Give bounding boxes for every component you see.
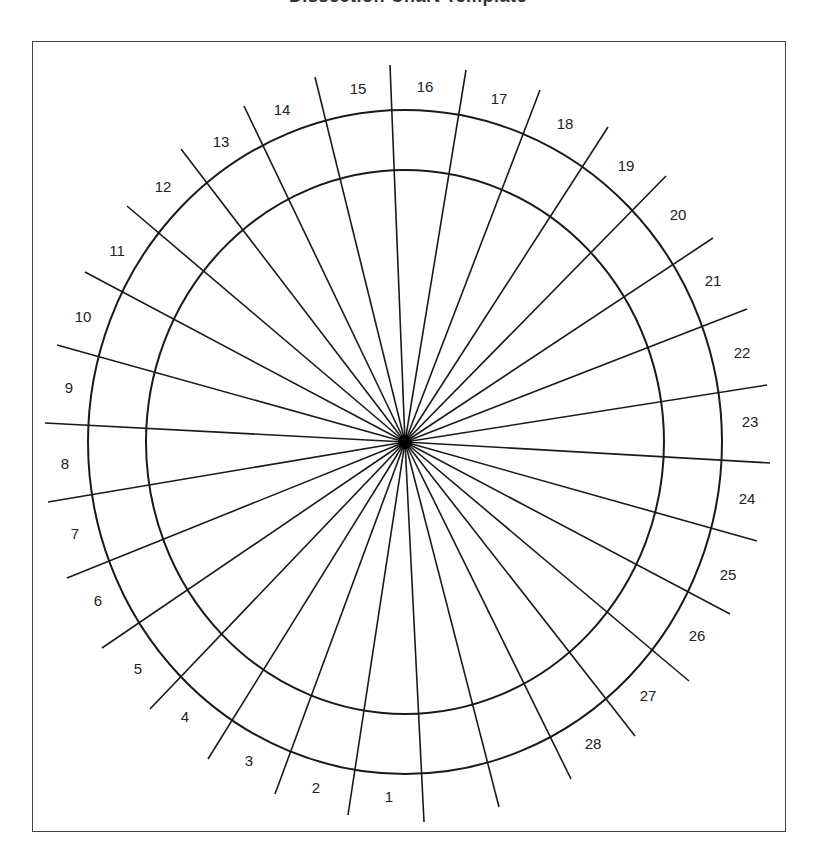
radial-line: [405, 442, 635, 736]
sector-label: 13: [213, 133, 230, 150]
sector-label: 1: [385, 788, 393, 805]
sector-label: 21: [705, 272, 722, 289]
sector-label: 20: [670, 206, 687, 223]
radial-line: [405, 442, 499, 807]
radial-line: [390, 65, 405, 442]
sector-label: 22: [734, 344, 751, 361]
radial-line: [405, 442, 757, 541]
radial-line: [405, 442, 770, 463]
radial-line: [405, 70, 466, 442]
radial-line: [315, 77, 405, 442]
sector-label: 9: [65, 379, 73, 396]
radial-line: [127, 206, 405, 442]
sector-label: 18: [557, 115, 574, 132]
radial-line: [405, 442, 424, 822]
center-hub: [398, 435, 412, 449]
radial-line: [45, 423, 405, 442]
sector-label: 26: [689, 627, 706, 644]
sector-label: 15: [350, 80, 367, 97]
sector-label: 27: [640, 687, 657, 704]
radial-line: [405, 385, 767, 442]
sector-label: 10: [75, 308, 92, 325]
radial-line: [405, 176, 666, 442]
sector-label: 24: [739, 490, 756, 507]
sector-label: 25: [720, 566, 737, 583]
radial-line: [244, 106, 405, 442]
radial-line: [348, 442, 405, 815]
sector-label: 19: [618, 157, 635, 174]
radial-line: [405, 442, 689, 681]
radial-line: [181, 149, 405, 442]
sector-label: 28: [585, 735, 602, 752]
radial-line: [57, 345, 405, 442]
radial-line: [405, 442, 730, 614]
radial-sector-diagram: 1234567891011121314151617181920212223242…: [0, 0, 816, 864]
sector-label: 11: [109, 242, 125, 259]
sector-label: 8: [61, 455, 69, 472]
radial-line: [405, 127, 608, 442]
radial-line: [405, 90, 540, 442]
sector-label: 6: [94, 592, 102, 609]
sector-label: 23: [742, 413, 759, 430]
sector-label: 5: [134, 660, 142, 677]
radial-line: [85, 272, 405, 442]
radial-line: [405, 442, 571, 779]
radial-line: [150, 442, 405, 709]
radial-line: [275, 442, 405, 794]
radial-line: [48, 442, 405, 502]
sector-label: 7: [71, 525, 79, 542]
sector-label: 17: [491, 90, 508, 107]
sector-label: 12: [155, 178, 172, 195]
sector-label: 14: [274, 101, 291, 118]
sector-label: 2: [312, 779, 320, 796]
sector-label: 3: [245, 752, 253, 769]
sector-label: 4: [181, 708, 189, 725]
sector-label: 16: [417, 78, 434, 95]
